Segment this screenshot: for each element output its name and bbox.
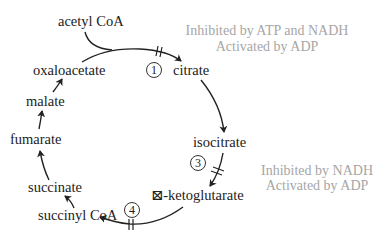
step-1-badge: 1 — [146, 62, 162, 78]
step3-activation-note: Activated by ADP — [257, 178, 377, 194]
citrate-label: citrate — [173, 62, 209, 78]
oxaloacetate-label: oxaloacetate — [33, 62, 105, 78]
succinate-label: succinate — [28, 179, 82, 195]
step-4-badge: 4 — [124, 202, 140, 218]
acetyl-coa-entry-arrow — [85, 32, 112, 50]
citrate-to-isocitrate-arrow — [201, 80, 224, 132]
oxaloacetate-to-citrate-arrow — [82, 49, 181, 62]
fumarate-label: fumarate — [10, 131, 62, 147]
step1-inhibition-note: Inhibited by ATP and NADH — [182, 23, 352, 39]
isocitrate-label: isocitrate — [193, 134, 246, 150]
succinate-to-fumarate-arrow — [40, 151, 49, 180]
alpha-ketoglutarate-label: ⊠-ketoglutarate — [151, 187, 244, 203]
step-3-badge: 3 — [190, 155, 206, 171]
malate-label: malate — [26, 93, 65, 109]
step1-activation-note: Activated by ADP — [182, 39, 352, 55]
succinyl-coa-label: succinyl CoA — [38, 207, 117, 223]
step3-inhibition-note: Inhibited by NADH — [257, 163, 377, 179]
malate-to-oxaloacetate-arrow — [53, 79, 62, 92]
citric-acid-cycle-diagram: acetyl CoA oxaloacetate citrate malate f… — [0, 0, 385, 252]
fumarate-to-malate-arrow — [39, 111, 42, 129]
acetyl-coa-label: acetyl CoA — [58, 13, 124, 29]
